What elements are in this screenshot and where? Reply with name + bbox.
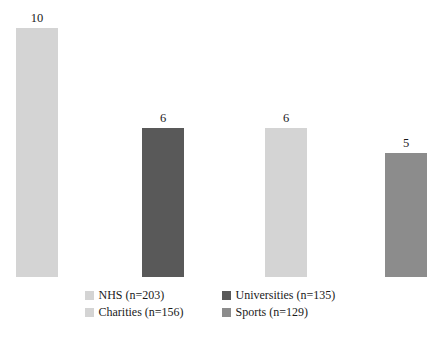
bar-value-label: 6 [255,111,317,125]
legend-item-sports[interactable]: Sports (n=129) [222,305,359,319]
legend-item-label: NHS (n=203) [99,288,165,302]
legend-swatch-icon [85,291,94,300]
bar-value-label: 6 [132,111,194,125]
legend-swatch-icon [222,291,231,300]
legend-swatch-icon [85,308,94,317]
legend-item-label: Charities (n=156) [99,305,184,319]
bar-group: 10 [16,0,58,283]
legend: NHS (n=203) Universities (n=135) Chariti… [0,288,443,319]
bar-sports[interactable] [385,153,427,278]
bar-chart: 10 6 6 5 NHS (n=203) Universities (n=135… [0,0,443,343]
bar-value-label: 5 [375,136,437,150]
bar-nhs[interactable] [16,28,58,277]
bar-group: 6 [265,0,307,283]
legend-row: Charities (n=156) Sports (n=129) [85,305,359,319]
legend-row: NHS (n=203) Universities (n=135) [85,288,359,302]
legend-item-universities[interactable]: Universities (n=135) [222,288,359,302]
bar-group: 5 [385,0,427,283]
legend-item-label: Sports (n=129) [236,305,308,319]
plot-area: 10 6 6 5 [0,0,443,283]
bar-charities[interactable] [265,128,307,277]
bar-value-label: 10 [6,11,68,25]
legend-item-charities[interactable]: Charities (n=156) [85,305,222,319]
bar-group: 6 [142,0,184,283]
bar-universities[interactable] [142,128,184,277]
legend-item-nhs[interactable]: NHS (n=203) [85,288,222,302]
legend-swatch-icon [222,308,231,317]
legend-item-label: Universities (n=135) [236,288,336,302]
